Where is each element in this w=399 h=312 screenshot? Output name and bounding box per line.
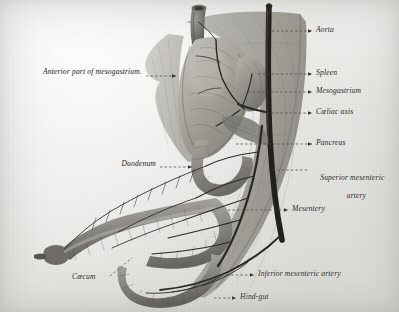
anatomical-plate: Anterior part of mesogastrium. Duodenum … <box>0 0 399 312</box>
plate-vignette <box>0 0 399 312</box>
